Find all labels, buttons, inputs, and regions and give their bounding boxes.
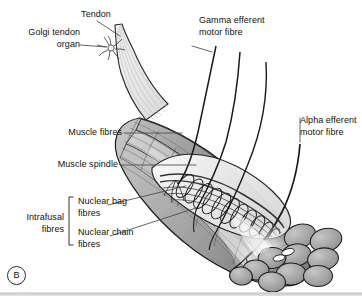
footer-divider	[0, 292, 362, 296]
muscle-spindle-figure: Tendon Golgi tendon organ Muscle fibres …	[0, 0, 362, 298]
label-muscle-spindle: Muscle spindle	[34, 159, 118, 170]
label-muscle-fibres: Muscle fibres	[44, 127, 122, 138]
label-nuclear-chain-line1: Nuclear chain	[78, 227, 134, 238]
label-nuclear-bag-line1: Nuclear bag	[78, 196, 127, 207]
label-nuclear-chain-line2: fibres	[78, 239, 100, 250]
panel-label-b: B	[7, 266, 26, 285]
label-alpha-efferent-line2: motor fibre	[300, 127, 344, 138]
label-golgi-tendon-organ-line1: Golgi tendon	[10, 27, 80, 38]
label-gamma-efferent-line1: Gamma efferent	[199, 15, 265, 26]
tendon-structure	[97, 24, 168, 120]
label-tendon: Tendon	[70, 9, 122, 20]
label-alpha-efferent-line1: Alpha efferent	[300, 115, 357, 126]
label-gamma-efferent-line2: motor fibre	[199, 27, 243, 38]
label-intrafusal-line1: Intrafusal	[0, 212, 64, 223]
label-nuclear-bag-line2: fibres	[78, 208, 100, 219]
leader-gamma	[192, 46, 212, 52]
label-golgi-tendon-organ-line2: organ	[10, 39, 80, 50]
label-intrafusal-line2: fibres	[0, 224, 64, 235]
intrafusal-bracket	[69, 197, 73, 245]
